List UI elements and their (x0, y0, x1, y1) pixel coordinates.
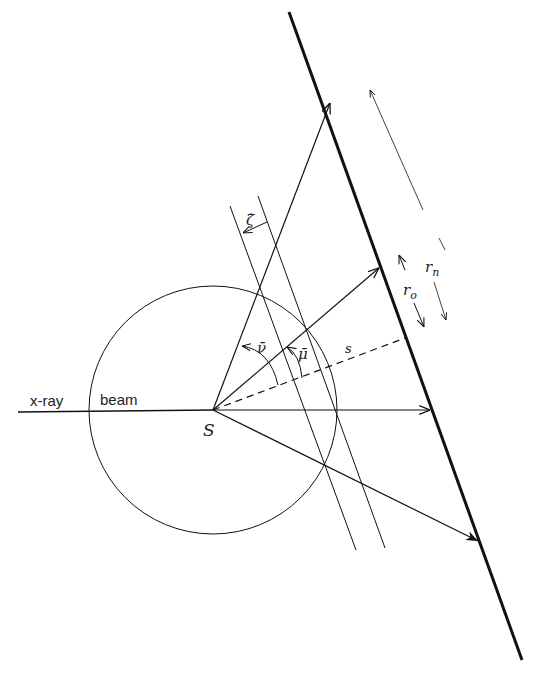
r-n-arrow-down (439, 238, 445, 250)
geometry (0, 0, 540, 675)
diagram: x-ray beam S s ν̄ μ̄ ζ̇ ro rn (0, 0, 540, 675)
ray-mid (213, 268, 379, 410)
r-n-label: rn (425, 260, 439, 278)
r-o-label: ro (403, 283, 417, 301)
mu-label: μ̄ (298, 347, 308, 362)
nu-label: ν̄ (257, 341, 266, 356)
xray-beam (18, 410, 213, 412)
r-n-sub: n (432, 266, 439, 279)
r-n-arrow-up (370, 90, 423, 210)
detector-line (289, 12, 522, 660)
s-label: s (345, 342, 352, 355)
r-o-sub: o (410, 289, 417, 302)
source-label: S (203, 422, 215, 439)
ray-up (213, 103, 330, 410)
xray-label: x-ray (30, 393, 63, 408)
r-o-arrow-up (399, 255, 405, 270)
r-o-arrow-down (414, 303, 424, 327)
zeta-label: ζ̇ (246, 213, 254, 228)
beam-label: beam (100, 392, 138, 407)
r-n-arrow-down2 (441, 245, 445, 286)
parallel-line-b (258, 196, 385, 548)
parallel-line-a (230, 206, 356, 550)
dashed-s (213, 338, 405, 410)
